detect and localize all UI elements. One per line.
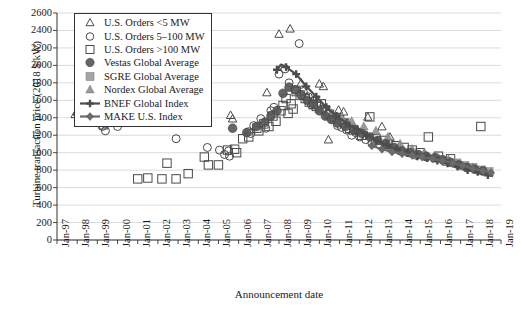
legend-label: Nordex Global Average <box>101 84 204 95</box>
y-tick-label: 1800 <box>18 78 52 88</box>
y-tick-label: 2400 <box>18 25 52 35</box>
data-point <box>158 175 166 183</box>
y-tick-label: 400 <box>18 200 52 210</box>
y-tick-label: 1000 <box>18 148 52 158</box>
x-tick-label: Jan-02 <box>162 219 172 247</box>
data-point <box>477 122 485 130</box>
legend-label: BNEF Global Index <box>101 98 189 109</box>
legend-label: U.S. Orders <5 MW <box>101 17 190 28</box>
data-point <box>172 175 180 183</box>
data-point <box>324 135 332 143</box>
legend-marker-triangle-gray-icon <box>79 83 101 96</box>
y-tick-label: 800 <box>18 165 52 175</box>
x-tick-label: Jan-18 <box>485 219 495 247</box>
y-tick-label: 2600 <box>18 8 52 18</box>
legend-item: BNEF Global Index <box>79 96 205 109</box>
x-axis-title: Announcement date <box>57 288 501 300</box>
x-tick-label: Jan-97 <box>61 219 71 247</box>
x-tick-label: Jan-08 <box>283 219 293 247</box>
x-tick-label: Jan-12 <box>364 219 374 247</box>
data-point <box>144 174 152 182</box>
data-point <box>275 30 283 38</box>
data-point <box>286 25 294 33</box>
legend-label: U.S. Orders >100 MW <box>101 44 200 55</box>
y-tick-label: 1400 <box>18 113 52 123</box>
data-point <box>204 161 212 169</box>
data-point <box>172 135 180 143</box>
legend-label: Vestas Global Average <box>101 57 199 68</box>
y-tick-label: 200 <box>18 218 52 228</box>
legend-item: MAKE U.S. Index <box>79 110 205 123</box>
y-tick-label: 1600 <box>18 95 52 105</box>
legend-marker-square-open-icon <box>79 43 101 56</box>
data-point <box>184 169 192 177</box>
x-tick-label: Jan-99 <box>101 219 111 247</box>
data-point <box>200 153 208 161</box>
data-point <box>242 128 251 137</box>
data-point <box>364 113 372 121</box>
y-tick-label: 600 <box>18 183 52 193</box>
legend-item: Nordex Global Average <box>79 83 205 96</box>
data-point <box>228 124 237 133</box>
legend-label: MAKE U.S. Index <box>101 111 183 122</box>
legend-item: U.S. Orders <5 MW <box>79 16 205 29</box>
y-tick-label: 1200 <box>18 130 52 140</box>
data-point <box>359 122 368 130</box>
data-point <box>252 122 261 131</box>
legend-marker-line-diamond-icon <box>79 110 101 123</box>
x-tick-label: Jan-06 <box>243 219 253 247</box>
legend-label: SGRE Global Average <box>101 71 199 82</box>
legend-marker-line-cross-icon <box>79 97 101 110</box>
x-tick-label: Jan-10 <box>323 219 333 247</box>
x-tick-label: Jan-14 <box>404 219 414 247</box>
data-point <box>378 122 386 130</box>
chart-legend: U.S. Orders <5 MWU.S. Orders 5–100 MWU.S… <box>74 13 212 127</box>
x-tick-label: Jan-19 <box>505 219 515 247</box>
data-point <box>263 88 271 96</box>
data-point <box>295 40 303 48</box>
data-point <box>203 143 211 151</box>
x-tick-label: Jan-98 <box>81 219 91 247</box>
x-tick-label: Jan-15 <box>424 219 434 247</box>
x-tick-label: Jan-03 <box>182 219 192 247</box>
data-point <box>214 161 222 169</box>
x-tick-label: Jan-16 <box>444 219 454 247</box>
x-tick-label: Jan-00 <box>122 219 132 247</box>
legend-item: Vestas Global Average <box>79 56 205 69</box>
x-tick-label: Jan-07 <box>263 219 273 247</box>
data-point <box>424 133 432 141</box>
y-tick-label: 0 <box>18 235 52 245</box>
legend-marker-square-gray-icon <box>79 70 101 83</box>
y-tick-label: 2200 <box>18 43 52 53</box>
x-tick-label: Jan-09 <box>303 219 313 247</box>
x-tick-label: Jan-01 <box>142 219 152 247</box>
data-point <box>134 175 142 183</box>
y-axis-tick-labels: 0200400600800100012001400160018002000220… <box>18 0 52 310</box>
legend-item: SGRE Global Average <box>79 70 205 83</box>
x-tick-label: Jan-05 <box>222 219 232 247</box>
x-tick-label: Jan-17 <box>465 219 475 247</box>
legend-marker-circle-filled-icon <box>79 56 101 69</box>
x-tick-label: Jan-11 <box>344 219 354 247</box>
legend-item: U.S. Orders >100 MW <box>79 43 205 56</box>
y-tick-label: 2000 <box>18 60 52 70</box>
x-tick-label: Jan-13 <box>384 219 394 247</box>
legend-label: U.S. Orders 5–100 MW <box>101 31 205 42</box>
data-point <box>163 159 171 167</box>
x-tick-label: Jan-04 <box>202 219 212 247</box>
legend-marker-triangle-open-icon <box>79 16 101 29</box>
legend-item: U.S. Orders 5–100 MW <box>79 29 205 42</box>
wind-turbine-price-chart: Turbine transaction price (2018 $/kW) 02… <box>0 0 521 310</box>
legend-marker-circle-open-icon <box>79 30 101 43</box>
data-point <box>287 100 295 108</box>
data-point <box>273 106 282 115</box>
